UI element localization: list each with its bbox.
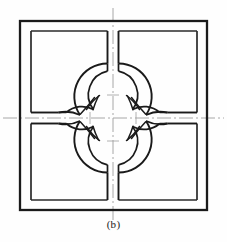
technical-drawing-svg (0, 0, 227, 242)
fillet-mark-upper-right (127, 96, 146, 115)
outer-quatrefoil-and-channels (31, 31, 197, 200)
centerline-group (3, 8, 224, 228)
figure-container: (b) (0, 0, 227, 242)
fillet-mark-upper-left (81, 96, 100, 115)
inner-cavity-square (31, 31, 197, 200)
fillet-mark-lower-left (81, 122, 100, 141)
fillet-mark-lower-right (127, 122, 146, 141)
figure-caption: (b) (0, 218, 227, 230)
outer-boundary-square (20, 21, 207, 210)
